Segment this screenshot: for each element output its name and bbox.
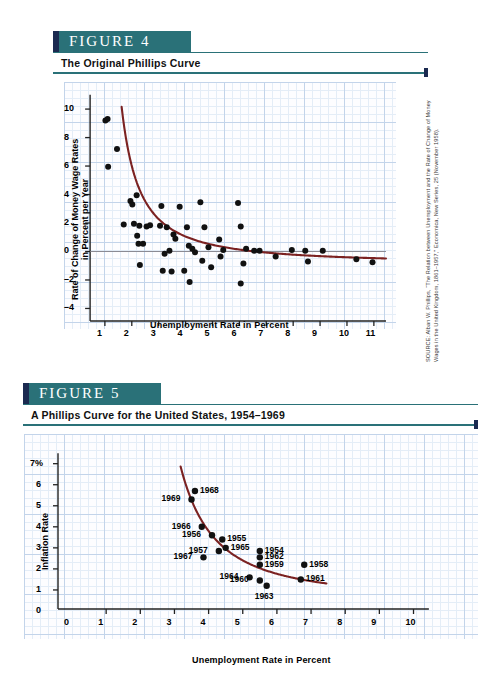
figure-4-data-point [302,248,308,254]
figure-4-data-point [257,248,263,254]
figure-4-data-point [320,248,326,254]
figure-5-data-point-1956 [209,532,215,538]
figure-5: FIGURE 5 A Phillips Curve for the United… [23,383,478,426]
figure-5-xtick-10: 10 [406,617,416,627]
figure-5-data-point-1954 [257,548,263,554]
figure-5-point-label-1967: 1967 [173,551,192,561]
figure-4-data-point [305,258,311,264]
figure-4-rule-endcap [424,68,428,77]
figure-5-header: FIGURE 5 [23,383,478,404]
figure-5-data-point-1957 [216,548,222,554]
figure-4-data-point [134,192,140,198]
figure-4-data-point [289,247,295,253]
figure-5-tab: FIGURE 5 [23,383,161,404]
figure-5-data-point-1965 [222,545,228,551]
figure-5-xtick-1: 1 [98,617,103,627]
figure-4-xtick-3: 3 [151,328,156,338]
figure-5-ytick-7: 7% [30,458,43,468]
figure-4-data-point [169,268,175,274]
figure-5-data-point-1958 [301,561,307,567]
figure-5-subtitle: A Phillips Curve for the United States, … [23,405,478,424]
figure-5-graph-paper [24,434,478,639]
figure-4-data-point [129,202,135,208]
figure-4-xtick-5: 5 [204,328,209,338]
figure-4-data-point [218,253,224,259]
figure-5-xtick-0: 0 [64,617,69,627]
figure-4-xtick-9: 9 [312,328,317,338]
figure-4-data-point [121,221,127,227]
figure-5-ytick-3: 3 [36,542,41,552]
figure-5-tab-label: FIGURE 5 [39,385,120,402]
figure-5-ytick-5: 5 [36,500,41,510]
figure-4-data-point [192,249,198,255]
figure-4-tab: FIGURE 4 [53,31,191,52]
figure-5-data-point-1967 [200,554,206,560]
figure-4-xtick-6: 6 [231,328,236,338]
figure-4-plot [64,82,396,329]
figure-4-ytick-10: 10 [64,103,74,113]
figure-4-header: FIGURE 4 [53,31,428,52]
figure-5-ylabel-text: Inflation Rate [40,513,50,570]
figure-5-point-label-1969: 1969 [162,493,181,503]
figure-4-ytick-2: 2 [64,217,69,227]
figure-4-ytick--4: –4 [64,302,74,312]
figure-5-data-point-1961 [298,576,304,582]
figure-4-ytick-6: 6 [64,160,69,170]
figure-4-data-point [157,223,163,229]
figure-4-ytick-8: 8 [64,132,69,142]
figure-5-data-point-1963 [263,583,269,589]
figure-4-data-point [238,224,244,230]
figure-5-plot [24,434,478,639]
figure-4-data-point [220,247,226,253]
figure-4-data-point [235,200,241,206]
figure-4-rule [53,72,428,74]
figure-5-point-label-1956: 1956 [182,529,201,539]
figure-5-ytick-4: 4 [36,521,41,531]
figure-5-point-label-1965: 1965 [231,542,250,552]
figure-4-data-point [353,256,359,262]
figure-5-xtick-9: 9 [371,617,376,627]
figure-5-data-point-1960 [257,577,263,583]
figure-5-ytick-6: 6 [36,479,41,489]
figure-4-data-point [134,233,140,239]
figure-4-data-point [164,224,170,230]
figure-4-subtitle: The Original Phillips Curve [53,53,428,72]
figure-4-xtick-11: 11 [366,328,376,338]
figure-4-xlabel: Unemployment Rate in Percent [150,320,289,330]
figure-5-xlabel: Unemployment Rate in Percent [192,655,331,665]
figure-4-xtick-2: 2 [124,328,129,338]
figure-4-data-point [208,264,214,270]
figure-5-ytick-1: 1 [36,584,41,594]
figure-4-graph-paper [64,82,396,329]
figure-4-data-point [172,236,178,242]
figure-4-data-point [273,253,279,259]
figure-5-point-label-1959: 1959 [265,559,284,569]
figure-4-data-point [187,279,193,285]
figure-4-xtick-8: 8 [285,328,290,338]
figure-5-ylabel: Inflation Rate [40,513,50,570]
figure-5-point-label-1963: 1963 [255,591,274,601]
figure-4-data-point [137,262,143,268]
figure-5-rule-endcap [474,420,478,429]
figure-5-xtick-4: 4 [201,617,206,627]
figure-4: FIGURE 4 The Original Phillips Curve [53,31,428,74]
figure-5-xtick-6: 6 [269,617,274,627]
figure-5-ytick-0: 0 [36,605,41,615]
figure-4-data-point [184,224,190,230]
figure-4-ylabel-line2: in Percent per Year [80,139,90,300]
figure-4-data-point [105,164,111,170]
figure-5-xtick-8: 8 [337,617,342,627]
figure-5-data-point-1955 [219,536,225,542]
figure-5-point-label-1960: 1960 [230,574,249,584]
figure-4-data-point [199,258,205,264]
figure-4-data-point [238,281,244,287]
figure-5-point-label-1961: 1961 [306,573,325,583]
figure-5-ytick-2: 2 [36,563,41,573]
figure-4-ytick-0: 0 [64,245,69,255]
figure-4-data-point [205,244,211,250]
figure-4-data-point [136,223,142,229]
figure-4-data-point [216,236,222,242]
figure-4-ytick--2: –2 [64,274,74,284]
figure-4-ytick-4: 4 [64,189,69,199]
figure-5-xtick-5: 5 [235,617,240,627]
